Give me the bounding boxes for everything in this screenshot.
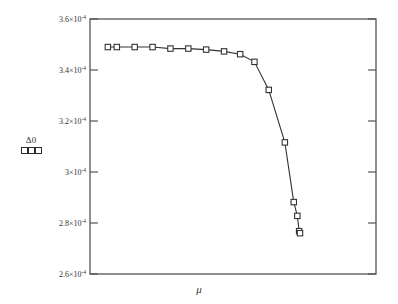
plot-canvas: 3.6×10-4 3.4×10-4 3.2×10-4 3×10-4 2.8×10… [0, 0, 398, 304]
chart-figure: 3.6×10-4 3.4×10-4 3.2×10-4 3×10-4 2.8×10… [0, 0, 398, 304]
data-point-marker [266, 87, 271, 92]
data-point-marker [150, 44, 155, 49]
y-axis-ticks-right [368, 19, 376, 274]
data-series-markers [105, 44, 303, 236]
data-series-line [108, 47, 300, 233]
data-point-marker [291, 199, 296, 204]
missing-glyph-box [35, 147, 42, 154]
y-axis-tick-labels: 3.6×10-4 3.4×10-4 3.2×10-4 3×10-4 2.8×10… [59, 14, 86, 280]
x-axis-label: μ [0, 283, 398, 295]
y-tick-label: 3.4×10-4 [59, 65, 86, 76]
plot-frame [90, 19, 376, 274]
data-point-marker [297, 231, 302, 236]
y-axis-label: Δ0 [14, 136, 48, 155]
data-point-marker [252, 59, 257, 64]
data-point-marker [295, 213, 300, 218]
data-point-marker [132, 44, 137, 49]
data-point-marker [237, 51, 242, 56]
missing-glyph-box [28, 147, 35, 154]
y-tick-label: 3.2×10-4 [59, 116, 86, 127]
y-axis-label-text: Δ0 [14, 136, 48, 145]
y-tick-label: 3×10-4 [65, 167, 86, 178]
data-point-marker [105, 44, 110, 49]
data-point-marker [186, 46, 191, 51]
y-tick-label: 2.6×10-4 [59, 269, 86, 280]
data-point-marker [221, 49, 226, 54]
y-tick-label: 3.6×10-4 [59, 14, 86, 25]
data-point-marker [203, 47, 208, 52]
missing-glyph-box [21, 147, 28, 154]
y-axis-label-missing-glyphs [14, 146, 48, 155]
data-point-marker [282, 140, 287, 145]
data-point-marker [114, 44, 119, 49]
data-point-marker [168, 46, 173, 51]
y-axis-ticks-left [90, 19, 98, 274]
y-tick-label: 2.8×10-4 [59, 218, 86, 229]
